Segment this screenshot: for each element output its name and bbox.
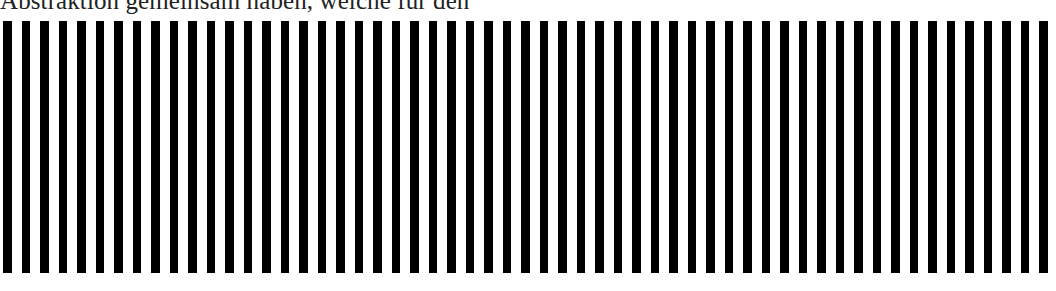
stripe: [410, 21, 419, 273]
stripe: [96, 21, 105, 273]
stripe: [447, 21, 456, 273]
stripe: [873, 21, 882, 273]
stripe: [817, 21, 826, 273]
stripe: [910, 21, 919, 273]
stripe: [1002, 21, 1011, 273]
stripe: [854, 21, 863, 273]
stripe: [762, 21, 771, 273]
stripe: [1021, 21, 1030, 273]
stripe: [688, 21, 697, 273]
stripe: [558, 21, 567, 273]
stripe: [151, 21, 160, 273]
stripe: [318, 21, 327, 273]
stripe: [928, 21, 937, 273]
stripe: [799, 21, 808, 273]
stripe: [40, 21, 49, 273]
stripe: [521, 21, 530, 273]
stripe: [651, 21, 660, 273]
stripe: [706, 21, 715, 273]
vertical-stripe-pattern: [0, 21, 1056, 273]
stripe: [22, 21, 31, 273]
stripe: [429, 21, 438, 273]
stripe: [188, 21, 197, 273]
stripe: [262, 21, 271, 273]
stripe: [780, 21, 789, 273]
stripe: [114, 21, 123, 273]
stripe: [207, 21, 216, 273]
stripe: [595, 21, 604, 273]
stripe: [577, 21, 586, 273]
stripe: [984, 21, 993, 273]
stripe: [373, 21, 382, 273]
stripe: [170, 21, 179, 273]
stripe: [281, 21, 290, 273]
stripe: [669, 21, 678, 273]
stripe: [336, 21, 345, 273]
stripe: [614, 21, 623, 273]
stripe: [947, 21, 956, 273]
stripe: [77, 21, 86, 273]
stripe: [59, 21, 68, 273]
stripe: [965, 21, 974, 273]
stripe: [836, 21, 845, 273]
stripe: [3, 21, 12, 273]
stripe: [1039, 21, 1048, 273]
stripe: [225, 21, 234, 273]
stripe: [743, 21, 752, 273]
stripe: [503, 21, 512, 273]
stripe: [244, 21, 253, 273]
stripe: [891, 21, 900, 273]
stripe: [392, 21, 401, 273]
stripe: [355, 21, 364, 273]
stripe: [133, 21, 142, 273]
stripe: [725, 21, 734, 273]
stripe: [632, 21, 641, 273]
stripe: [540, 21, 549, 273]
stripe: [466, 21, 475, 273]
stripe: [484, 21, 493, 273]
stripe: [299, 21, 308, 273]
cropped-text-line: Abstraktion gemeinsam haben, welche für …: [0, 0, 469, 15]
